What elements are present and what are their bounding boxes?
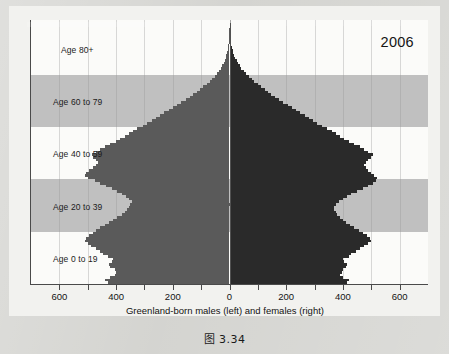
bar-female [230, 88, 265, 91]
bar-male [93, 166, 229, 169]
bar-male [96, 164, 229, 167]
bar-male [125, 211, 230, 214]
bar-male [108, 281, 230, 284]
bar-male [147, 122, 229, 125]
bar-female [230, 266, 346, 269]
x-axis-tick-label: 200 [278, 291, 294, 302]
bar-female [230, 166, 366, 169]
bar-male [100, 226, 229, 229]
bar-male [110, 143, 229, 146]
bar-female [230, 198, 343, 201]
bar-female [230, 179, 376, 182]
bar-female [230, 125, 322, 128]
bar-male [177, 104, 229, 107]
bar-female [230, 98, 280, 101]
x-axis-tick [343, 285, 344, 290]
bar-male [100, 148, 229, 151]
bar-male [93, 156, 229, 159]
page-background: Age 80+Age 60 to 79Age 40 to 59Age 20 to… [0, 0, 449, 354]
bar-male [169, 109, 230, 112]
bar-male [96, 229, 229, 232]
bar-male [207, 83, 230, 86]
age-band-label: Age 60 to 79 [53, 97, 102, 107]
x-axis-tick-label: 400 [335, 291, 351, 302]
bar-female [230, 135, 341, 138]
bar-female [230, 279, 349, 282]
bar-male [116, 140, 229, 143]
bar-female [230, 271, 342, 274]
bar-female [230, 174, 375, 177]
bar-female [230, 182, 373, 185]
bar-female [230, 101, 284, 104]
bar-male [193, 93, 229, 96]
bar-male [217, 72, 229, 75]
bar-male [100, 182, 229, 185]
bar-female [230, 70, 244, 73]
bar-male [100, 250, 229, 253]
bar-male [122, 193, 230, 196]
bar-female [230, 85, 262, 88]
bar-male [117, 190, 229, 193]
bar-female [230, 151, 369, 154]
x-axis-tick [173, 285, 174, 290]
figure-caption: 图 3.34 [0, 330, 449, 346]
bar-female [230, 281, 348, 284]
bar-female [230, 200, 339, 203]
bar-female [230, 224, 351, 227]
figure-card: Age 80+Age 60 to 79Age 40 to 59Age 20 to… [9, 6, 440, 316]
bar-female [230, 93, 272, 96]
bar-female [230, 104, 288, 107]
bar-female [230, 172, 372, 175]
x-axis-tick-label: 0 [227, 291, 232, 302]
bar-male [173, 106, 230, 109]
bar-male [105, 224, 230, 227]
bar-female [230, 117, 309, 120]
bar-female [230, 96, 275, 99]
bar-male [126, 195, 230, 198]
plot-area: Age 80+Age 60 to 79Age 40 to 59Age 20 to… [21, 16, 429, 288]
bar-female [230, 203, 336, 206]
bar-female [230, 62, 239, 65]
bar-female [230, 242, 369, 245]
bar-female [230, 111, 301, 114]
bar-female [230, 64, 240, 67]
x-axis-tick [400, 285, 401, 290]
bar-female [230, 106, 292, 109]
x-axis-tick [286, 285, 287, 290]
bar-female [230, 234, 368, 237]
bar-female [230, 193, 352, 196]
bar-male [113, 258, 229, 261]
bar-male [129, 198, 230, 201]
bar-female [230, 148, 365, 151]
bar-female [230, 83, 258, 86]
x-axis-tick-label: 400 [108, 291, 124, 302]
bar-male [112, 187, 230, 190]
bar-male [190, 96, 230, 99]
bar-female [230, 177, 377, 180]
bar-female [230, 245, 365, 248]
bar-male [221, 67, 230, 70]
bar-female [230, 253, 352, 256]
x-axis-tick-label: 600 [51, 291, 67, 302]
bar-female [230, 187, 363, 190]
x-axis-tick [371, 285, 372, 290]
bar-female [230, 240, 372, 243]
age-band-label: Age 80+ [61, 45, 94, 55]
bar-female [230, 250, 356, 253]
bar-female [230, 161, 366, 164]
bar-male [103, 253, 229, 256]
bar-male [122, 213, 230, 216]
x-axis-tick [59, 285, 60, 290]
bar-female [230, 237, 370, 240]
bar-female [230, 59, 237, 62]
bar-male [156, 117, 230, 120]
bar-female [230, 67, 242, 70]
bar-male [105, 145, 230, 148]
gridline [371, 20, 372, 284]
bar-male [222, 64, 229, 67]
bar-female [230, 216, 341, 219]
bar-female [230, 127, 328, 130]
bar-female [230, 221, 346, 224]
bar-male [212, 78, 229, 81]
bar-male [86, 172, 229, 175]
